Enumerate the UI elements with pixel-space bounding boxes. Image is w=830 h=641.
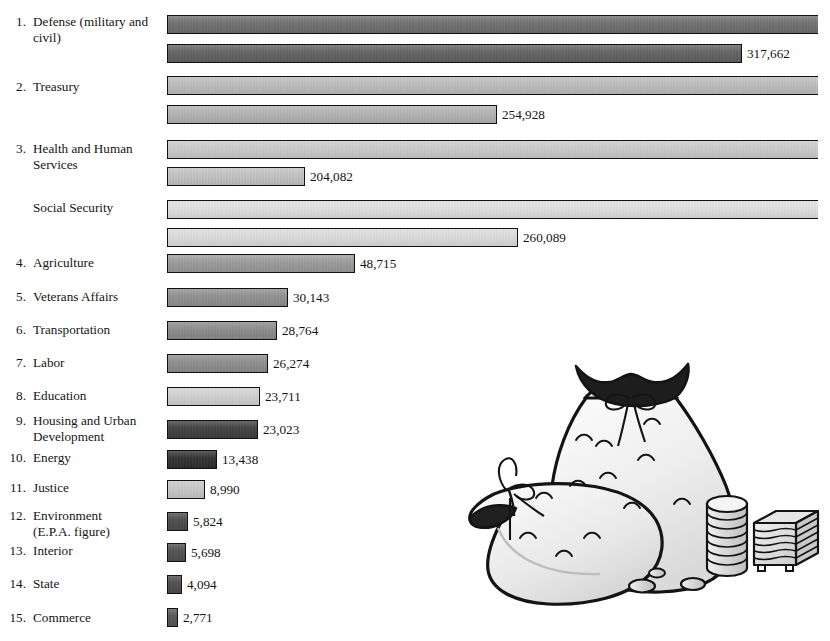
chart-row-label: 15.Commerce: [0, 610, 160, 626]
chart-row-label-line: Housing and Urban: [33, 413, 160, 429]
chart-row-label: 7.Labor: [0, 355, 160, 371]
chart-row-number: 13.: [0, 543, 26, 559]
chart-row-label-line: Services: [33, 157, 160, 173]
chart-row-label: 14.State: [0, 576, 160, 592]
chart-bar: [167, 354, 268, 373]
chart-row-label: 4.Agriculture: [0, 255, 160, 271]
budget-bar-chart-figure: 1.Defense (military andcivil)317,6622.Tr…: [0, 0, 830, 641]
chart-bar: [167, 140, 818, 159]
chart-row-label: Social Security: [0, 200, 160, 216]
chart-bar: [167, 167, 305, 186]
chart-row-label: 2.Treasury: [0, 79, 160, 95]
chart-row-label-line: Interior: [33, 543, 160, 559]
chart-row-label: 13.Interior: [0, 543, 160, 559]
chart-row-label: 9.Housing and UrbanDevelopment: [0, 413, 160, 445]
chart-row-label-line: Health and Human: [33, 141, 160, 157]
chart-bar-value-label: 26,274: [273, 354, 309, 373]
chart-row-label-line: Labor: [33, 355, 160, 371]
chart-row-number: 6.: [0, 322, 26, 338]
chart-row-label-line: Defense (military and: [33, 14, 160, 30]
chart-bar: [167, 288, 288, 307]
chart-bar: [167, 321, 277, 340]
chart-bar-value-label: 5,824: [193, 512, 223, 531]
chart-row-label-line: Energy: [33, 450, 160, 466]
chart-row-label-line: (E.P.A. figure): [33, 524, 160, 540]
chart-row-number: 3.: [0, 141, 26, 157]
chart-row-number: 7.: [0, 355, 26, 371]
chart-row-label-line: Agriculture: [33, 255, 160, 271]
coin-stack: [707, 496, 747, 576]
chart-row-number: 1.: [0, 14, 26, 30]
chart-row-label: 11.Justice: [0, 480, 160, 496]
chart-bar: [167, 450, 217, 469]
chart-bar: [167, 387, 260, 406]
chart-row-number: 11.: [0, 480, 26, 496]
chart-bar: [167, 608, 178, 627]
money-bags-coins-and-bills-icon: [448, 352, 820, 620]
chart-row-number: 8.: [0, 388, 26, 404]
chart-bar-value-label: 23,711: [265, 387, 301, 406]
bill-stack: [754, 511, 818, 571]
chart-bar-value-label: 2,771: [183, 608, 213, 627]
chart-bar-value-label: 48,715: [360, 254, 396, 273]
chart-row-number: 4.: [0, 255, 26, 271]
chart-bar-value-label: 204,082: [310, 167, 353, 186]
chart-bar: [167, 15, 818, 34]
chart-row-label-line: Veterans Affairs: [33, 289, 160, 305]
chart-row-label-line: Commerce: [33, 610, 160, 626]
chart-bar-value-label: 28,764: [282, 321, 318, 340]
chart-row-label-line: State: [33, 576, 160, 592]
chart-row-label-line: Education: [33, 388, 160, 404]
chart-bar-value-label: 317,662: [747, 44, 790, 63]
chart-bar: [167, 76, 818, 95]
chart-bar: [167, 228, 518, 247]
chart-bar: [167, 480, 205, 499]
chart-row-label-line: Development: [33, 429, 160, 445]
chart-bar: [167, 105, 497, 124]
chart-bar: [167, 254, 355, 273]
chart-row-label: 5.Veterans Affairs: [0, 289, 160, 305]
chart-bar: [167, 543, 186, 562]
chart-bar-value-label: 260,089: [523, 228, 566, 247]
chart-bar-value-label: 5,698: [191, 543, 221, 562]
chart-row-number: 2.: [0, 79, 26, 95]
chart-bar: [167, 44, 742, 63]
chart-bar: [167, 575, 182, 594]
chart-row-label-line: Transportation: [33, 322, 160, 338]
chart-row-number: 15.: [0, 610, 26, 626]
chart-row-number: 9.: [0, 413, 26, 429]
chart-bar-value-label: 254,928: [502, 105, 545, 124]
chart-bar-value-label: 8,990: [210, 480, 240, 499]
chart-bar-value-label: 4,094: [187, 575, 217, 594]
chart-row-number: 12.: [0, 508, 26, 524]
chart-row-label: 10.Energy: [0, 450, 160, 466]
chart-row-label-line: Justice: [33, 480, 160, 496]
chart-row-number: 10.: [0, 450, 26, 466]
chart-row-label: 3.Health and HumanServices: [0, 141, 160, 173]
chart-bar: [167, 420, 258, 439]
chart-bar-value-label: 30,143: [293, 288, 329, 307]
chart-row-number: 5.: [0, 289, 26, 305]
chart-row-label: 8.Education: [0, 388, 160, 404]
chart-bar-value-label: 13,438: [222, 450, 258, 469]
chart-row-label-line: civil): [33, 30, 160, 46]
chart-row-label: 12.Environment(E.P.A. figure): [0, 508, 160, 540]
chart-bar-value-label: 23,023: [263, 420, 299, 439]
chart-bar: [167, 512, 188, 531]
chart-bar: [167, 200, 818, 219]
chart-row-label: 6.Transportation: [0, 322, 160, 338]
chart-row-number: 14.: [0, 576, 26, 592]
chart-row-label: 1.Defense (military andcivil): [0, 14, 160, 46]
chart-row-label-line: Treasury: [33, 79, 160, 95]
chart-row-label-line: Social Security: [33, 200, 160, 216]
chart-row-label-line: Environment: [33, 508, 160, 524]
